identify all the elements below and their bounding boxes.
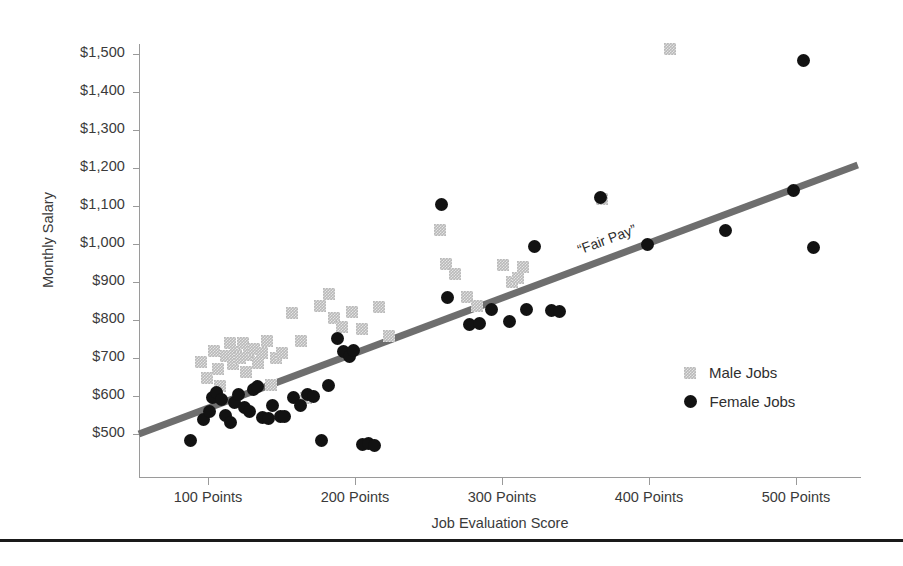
data-point-male-job (664, 43, 676, 55)
data-point-female-job (215, 393, 228, 406)
data-point-female-job (553, 305, 566, 318)
data-point-male-job (512, 272, 524, 284)
data-point-male-job (261, 335, 273, 347)
data-point-female-job (641, 238, 654, 251)
data-point-female-job (262, 412, 275, 425)
data-point-male-job (383, 330, 395, 342)
data-point-male-job (471, 300, 483, 312)
legend-item-female-jobs: Female Jobs (684, 387, 795, 416)
data-point-female-job (224, 416, 237, 429)
fair-pay-trendline (0, 0, 903, 566)
data-point-male-job (295, 335, 307, 347)
data-point-female-job (435, 198, 448, 211)
scatter-plot-figure: $1,500$1,400$1,300$1,200$1,100$1,000$900… (0, 0, 903, 566)
data-point-female-job (203, 405, 216, 418)
female-jobs-circle-icon (684, 395, 697, 408)
data-point-female-job (347, 344, 360, 357)
data-point-female-job (528, 240, 541, 253)
data-point-male-job (265, 379, 277, 391)
data-point-female-job (243, 405, 256, 418)
legend-item-male-jobs: Male Jobs (684, 358, 795, 387)
data-point-male-job (276, 347, 288, 359)
data-point-male-job (356, 323, 368, 335)
data-point-female-job (485, 303, 498, 316)
data-point-female-job (787, 184, 800, 197)
bottom-divider-rule (0, 539, 903, 542)
data-point-male-job (195, 356, 207, 368)
chart-legend: Male Jobs Female Jobs (684, 358, 795, 416)
data-point-male-job (434, 224, 446, 236)
data-point-male-job (212, 363, 224, 375)
data-point-female-job (368, 439, 381, 452)
data-point-male-job (201, 372, 213, 384)
data-point-male-job (208, 345, 220, 357)
data-point-male-job (286, 307, 298, 319)
data-point-male-job (256, 347, 268, 359)
data-point-male-job (497, 259, 509, 271)
data-point-female-job (807, 241, 820, 254)
data-point-female-job (278, 410, 291, 423)
data-point-female-job (719, 224, 732, 237)
data-point-male-job (336, 321, 348, 333)
data-point-female-job (331, 332, 344, 345)
male-jobs-square-icon (684, 367, 696, 379)
data-point-male-job (252, 357, 264, 369)
legend-label-male-jobs: Male Jobs (709, 364, 777, 381)
data-point-female-job (315, 434, 328, 447)
data-point-male-job (449, 268, 461, 280)
data-point-male-job (240, 366, 252, 378)
data-point-male-job (346, 306, 358, 318)
data-point-male-job (517, 261, 529, 273)
data-point-male-job (373, 301, 385, 313)
legend-label-female-jobs: Female Jobs (710, 393, 796, 410)
data-point-male-job (323, 288, 335, 300)
data-point-male-job (314, 300, 326, 312)
